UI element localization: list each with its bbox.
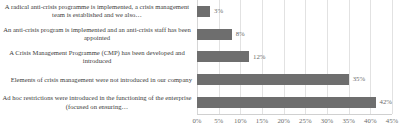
bar-row: 35%	[197, 68, 392, 91]
bar-value-label: 8%	[236, 31, 245, 38]
x-tick-label: 5%	[214, 116, 223, 126]
category-label: Elements of crisis management were not i…	[0, 68, 195, 91]
x-tick-label: 30%	[321, 116, 333, 126]
x-tick-label: 15%	[256, 116, 268, 126]
x-tick-label: 0%	[192, 116, 201, 126]
x-tick-label: 40%	[364, 116, 376, 126]
bar-row: 42%	[197, 91, 392, 114]
category-label-text: Elements of crisis management were not i…	[11, 76, 192, 84]
bar[interactable]	[197, 97, 376, 108]
category-label: A Crisis Management Programme (CMP) has …	[0, 46, 195, 69]
x-tick-label: 10%	[234, 116, 246, 126]
bar-row: 8%	[197, 23, 392, 46]
category-label-text: An anti-crisis program is implemented an…	[2, 26, 192, 43]
bar-value-label: 35%	[353, 76, 365, 83]
bar-value-label: 42%	[380, 99, 392, 106]
x-tick-label: 35%	[342, 116, 354, 126]
bar-series: 3% 8% 12% 35% 42%	[197, 0, 392, 114]
bar[interactable]	[197, 51, 249, 62]
bar-row: 12%	[197, 46, 392, 69]
bar[interactable]	[197, 6, 210, 17]
category-label: Ad hoc restrictions were introduced in t…	[0, 91, 195, 114]
bar-chart: A radical anti-crisis programme is imple…	[0, 0, 405, 139]
category-label-text: A Crisis Management Programme (CMP) has …	[2, 49, 192, 66]
category-label-text: Ad hoc restrictions were introduced in t…	[2, 94, 192, 111]
x-axis-line	[197, 114, 392, 115]
x-tick-label: 45%	[386, 116, 398, 126]
category-label: A radical anti-crisis programme is imple…	[0, 0, 195, 23]
bar[interactable]	[197, 29, 232, 40]
x-axis-tick-labels: 0%5%10%15%20%25%30%35%40%45%	[197, 116, 392, 130]
bar-value-label: 3%	[214, 8, 223, 15]
plot-area: 3% 8% 12% 35% 42%	[197, 0, 392, 114]
category-label: An anti-crisis program is implemented an…	[0, 23, 195, 46]
x-tick-label: 20%	[277, 116, 289, 126]
bar-value-label: 12%	[253, 54, 265, 61]
category-axis-labels: A radical anti-crisis programme is imple…	[0, 0, 195, 114]
category-label-text: A radical anti-crisis programme is imple…	[2, 3, 192, 20]
x-tick-label: 25%	[299, 116, 311, 126]
bar[interactable]	[197, 74, 349, 85]
bar-row: 3%	[197, 0, 392, 23]
gridline	[392, 0, 393, 114]
